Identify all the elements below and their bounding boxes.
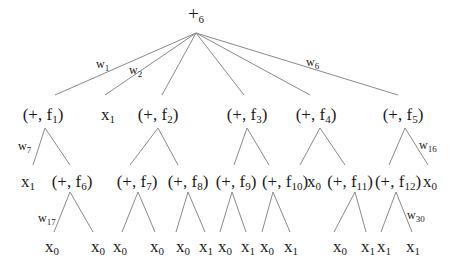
edge-n_f8-to-l_f8b — [188, 192, 205, 232]
edge-root-to-n_f1 — [55, 33, 196, 95]
edge-n_f8-to-l_f8a — [176, 192, 188, 232]
edge-n_f4-to-n_x0a — [300, 128, 320, 165]
edge-weight-label: w30 — [407, 209, 425, 224]
edge-n_f7-to-l_f7b — [138, 192, 155, 232]
variable-node: x0 — [307, 173, 321, 192]
edge-weight-label: w1 — [96, 58, 109, 73]
edge-n_f7-to-l_f7a — [122, 192, 138, 232]
leaf-variable-node: x1 — [377, 238, 391, 257]
edge-root-to-n_x1a — [105, 33, 196, 95]
edge-weight-label: w16 — [419, 139, 437, 154]
edge-root-to-n_f3 — [196, 33, 244, 95]
operator-function-node: (+, f10) — [262, 173, 308, 192]
edge-n_f2-to-n_f7 — [130, 128, 158, 165]
leaf-variable-node: x0 — [91, 238, 105, 257]
edge-n_f11-to-l_f11b — [355, 192, 366, 232]
edge-n_f5-to-n_f12 — [389, 128, 405, 165]
edge-weight-label: w6 — [306, 56, 319, 71]
edge-n_f11-to-l_f11a — [334, 192, 355, 232]
leaf-variable-node: x0 — [333, 238, 347, 257]
leaf-variable-node: x0 — [260, 238, 274, 257]
edge-weight-label: w2 — [129, 64, 142, 79]
operator-function-node: (+, f7) — [117, 173, 158, 192]
edge-root-to-n_f5 — [196, 33, 398, 95]
operator-function-node: (+, f11) — [327, 173, 373, 192]
variable-node: x0 — [423, 173, 437, 192]
edge-n_f4-to-n_f11 — [320, 128, 345, 165]
operator-function-node: (+, f6) — [52, 173, 93, 192]
edge-n_f1-to-n_f6 — [45, 128, 70, 165]
operator-function-node: (+, f5) — [383, 106, 424, 125]
leaf-variable-node: x1 — [361, 238, 375, 257]
edge-n_f9-to-l_f9b — [232, 192, 246, 232]
leaf-variable-node: x1 — [406, 238, 420, 257]
operator-function-node: (+, f12) — [375, 173, 421, 192]
edge-n_f3-to-n_f10 — [247, 128, 269, 165]
leaf-variable-node: x0 — [176, 238, 190, 257]
edge-n_f10-to-l_f10b — [273, 192, 290, 232]
leaf-variable-node: x0 — [45, 238, 59, 257]
edge-n_f3-to-n_f9 — [234, 128, 247, 165]
operator-function-node: (+, f1) — [23, 106, 64, 125]
leaf-variable-node: x0 — [113, 238, 127, 257]
edge-weight-label: w7 — [18, 140, 31, 155]
edge-n_f2-to-n_f8 — [158, 128, 178, 165]
edge-n_f1-to-n_x1b — [33, 128, 45, 165]
leaf-variable-node: x1 — [241, 238, 255, 257]
edge-root-to-n_f2 — [162, 33, 196, 95]
leaf-variable-node: x1 — [199, 238, 213, 257]
operator-function-node: (+, f8) — [168, 173, 209, 192]
leaf-variable-node: x0 — [218, 238, 232, 257]
edge-n_f10-to-l_f10a — [262, 192, 273, 232]
operator-function-node: (+, f9) — [216, 173, 257, 192]
edge-n_f12-to-l_f12a — [381, 192, 396, 232]
root-operator-node: +6 — [188, 4, 204, 25]
expression-tree-diagram: w1w2w6w7w16w17w30+6(+, f1)x1(+, f2)(+, f… — [0, 0, 457, 272]
variable-node: x1 — [21, 173, 35, 192]
variable-node: x1 — [101, 106, 115, 125]
edge-weight-label: w17 — [38, 212, 56, 227]
leaf-variable-node: x1 — [284, 238, 298, 257]
operator-function-node: (+, f2) — [138, 106, 179, 125]
operator-function-node: (+, f4) — [296, 106, 337, 125]
tree-edges — [0, 0, 457, 272]
edge-n_f6-to-l_f6b — [70, 192, 93, 232]
leaf-variable-node: x0 — [150, 238, 164, 257]
edge-root-to-n_f4 — [196, 33, 310, 95]
operator-function-node: (+, f3) — [227, 106, 268, 125]
edge-n_f6-to-l_f6a — [54, 192, 70, 232]
edge-n_f9-to-l_f9a — [220, 192, 232, 232]
